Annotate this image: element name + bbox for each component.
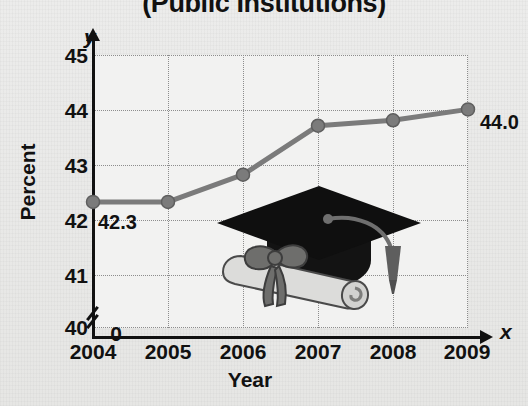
- y-tick-42: 42: [54, 209, 88, 233]
- x-tick-2009: 2009: [431, 340, 503, 364]
- graduation-cap-and-diploma-illustration: [215, 176, 430, 326]
- y-axis-line: [92, 38, 95, 338]
- gridline-x-2005: [168, 55, 169, 328]
- x-axis-label: Year: [150, 368, 350, 392]
- gridline-y-43: [93, 165, 468, 166]
- x-tick-2005: 2005: [132, 340, 204, 364]
- tassel-shape: [385, 246, 401, 280]
- gridline-y-40: [93, 327, 468, 328]
- tassel-tip: [389, 280, 397, 294]
- x-tick-2006: 2006: [207, 340, 279, 364]
- y-tick-45: 45: [54, 44, 88, 68]
- x-tick-2004: 2004: [57, 340, 129, 364]
- gridline-x-2009: [467, 55, 468, 328]
- data-label-last: 44.0: [480, 111, 519, 134]
- x-axis-line: [92, 336, 482, 339]
- data-label-first: 42.3: [98, 211, 137, 234]
- x-tick-2008: 2008: [357, 340, 429, 364]
- y-tick-43: 43: [54, 154, 88, 178]
- y-tick-44: 44: [54, 99, 88, 123]
- gridline-y-44: [93, 110, 468, 111]
- gridline-y-45: [93, 55, 468, 56]
- y-tick-41: 41: [54, 264, 88, 288]
- x-tick-2007: 2007: [282, 340, 354, 364]
- y-axis-label: Percent: [16, 132, 40, 232]
